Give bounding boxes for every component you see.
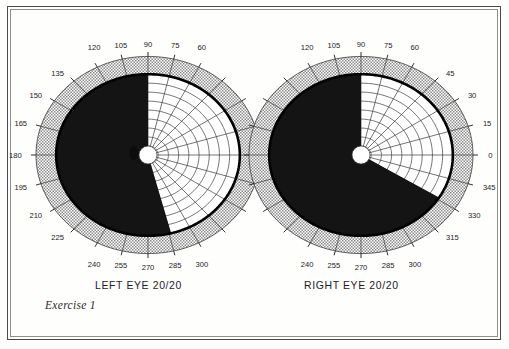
fixation-point bbox=[352, 146, 370, 164]
axis-tick bbox=[199, 243, 201, 247]
axis-label: 165 bbox=[14, 119, 27, 128]
axis-tick bbox=[263, 209, 267, 211]
axis-label: 255 bbox=[114, 261, 127, 270]
axis-tick bbox=[36, 125, 41, 126]
axis-label: 285 bbox=[382, 261, 395, 270]
axis-tick bbox=[50, 209, 54, 211]
axis-label: 90 bbox=[357, 40, 365, 49]
axis-tick bbox=[387, 55, 388, 59]
perimetry-figure: 1201059075601351501651801952102252402552… bbox=[0, 0, 509, 349]
axis-tick bbox=[242, 99, 246, 101]
axis-label: 105 bbox=[114, 41, 127, 50]
axis-label: 135 bbox=[51, 69, 64, 78]
axis-tick bbox=[95, 63, 97, 67]
axis-tick bbox=[468, 184, 473, 185]
chart-right-eye: 1201059075604530150345330315240255270285… bbox=[244, 40, 496, 272]
axis-label: 240 bbox=[88, 260, 101, 269]
fixation-point bbox=[139, 146, 157, 164]
axis-tick bbox=[412, 243, 414, 247]
axis-tick bbox=[387, 251, 388, 255]
axis-label: 105 bbox=[327, 41, 340, 50]
axis-label: 120 bbox=[301, 43, 314, 52]
axis-tick bbox=[174, 55, 175, 59]
axis-tick bbox=[284, 229, 287, 232]
axis-label: 195 bbox=[14, 183, 27, 192]
axis-label: 300 bbox=[408, 260, 421, 269]
left-eye-label: LEFT EYE 20/20 bbox=[95, 279, 182, 291]
axis-tick bbox=[455, 99, 459, 101]
axis-label: 330 bbox=[468, 211, 481, 220]
axis-label: 75 bbox=[384, 41, 392, 50]
axis-tick bbox=[412, 63, 414, 67]
axis-tick bbox=[308, 63, 310, 67]
axis-label: 150 bbox=[29, 91, 42, 100]
axis-tick bbox=[284, 78, 287, 81]
axis-tick bbox=[435, 78, 438, 81]
axis-tick bbox=[174, 251, 175, 255]
axis-tick bbox=[222, 229, 225, 232]
axis-tick bbox=[50, 99, 54, 101]
axis-label: 240 bbox=[301, 260, 314, 269]
axis-tick bbox=[308, 243, 310, 247]
axis-tick bbox=[435, 229, 438, 232]
axis-label: 15 bbox=[483, 119, 491, 128]
chart-left-eye: 1201059075601351501651801952102252402552… bbox=[9, 40, 265, 272]
axis-label: 90 bbox=[144, 40, 152, 49]
axis-label: 180 bbox=[9, 151, 22, 160]
axis-tick bbox=[71, 229, 74, 232]
right-eye-label: RIGHT EYE 20/20 bbox=[304, 279, 399, 291]
axis-label: 0 bbox=[488, 151, 492, 160]
axis-tick bbox=[95, 243, 97, 247]
axis-label: 120 bbox=[88, 43, 101, 52]
axis-label: 315 bbox=[446, 233, 459, 242]
axis-label: 45 bbox=[446, 69, 454, 78]
axis-label: 270 bbox=[355, 263, 368, 272]
blind-spot bbox=[130, 146, 139, 160]
axis-tick bbox=[222, 78, 225, 81]
axis-tick bbox=[36, 184, 41, 185]
axis-label: 75 bbox=[171, 41, 179, 50]
axis-tick bbox=[334, 55, 335, 59]
axis-label: 60 bbox=[411, 43, 419, 52]
axis-tick bbox=[121, 55, 122, 59]
perimetry-svg: 1201059075601351501651801952102252402552… bbox=[0, 0, 509, 349]
axis-tick bbox=[468, 125, 473, 126]
axis-label: 60 bbox=[198, 43, 206, 52]
axis-tick bbox=[71, 78, 74, 81]
axis-label: 210 bbox=[29, 211, 42, 220]
axis-label: 30 bbox=[468, 91, 476, 100]
axis-label: 225 bbox=[51, 233, 64, 242]
axis-tick bbox=[242, 209, 246, 211]
axis-label: 300 bbox=[195, 260, 208, 269]
axis-tick bbox=[455, 209, 459, 211]
axis-label: 345 bbox=[483, 183, 496, 192]
axis-tick bbox=[334, 251, 335, 255]
axis-label: 255 bbox=[327, 261, 340, 270]
figure-caption: Exercise 1 bbox=[45, 299, 96, 311]
axis-tick bbox=[121, 251, 122, 255]
axis-label: 270 bbox=[142, 263, 155, 272]
axis-tick bbox=[263, 99, 267, 101]
charts-canvas: 1201059075601351501651801952102252402552… bbox=[0, 0, 509, 349]
axis-tick bbox=[199, 63, 201, 67]
axis-label: 285 bbox=[169, 261, 182, 270]
